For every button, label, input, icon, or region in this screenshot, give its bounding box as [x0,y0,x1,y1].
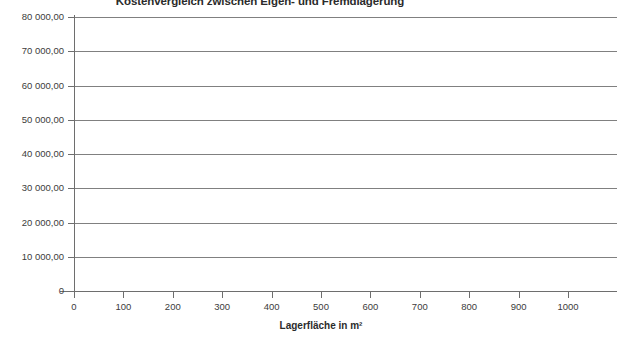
y-axis-tick [68,17,75,18]
y-axis-tick [68,223,75,224]
gridline [74,223,617,224]
gridline [74,188,617,189]
y-axis-tick [68,188,75,189]
x-axis-tick [321,292,322,298]
plot-area [74,17,617,291]
x-axis-tick [568,292,569,298]
x-axis-tick [74,292,75,298]
x-axis-tick [469,292,470,298]
y-axis-tick [68,154,75,155]
y-axis-tick-label: 20 000,00 [0,217,64,228]
gridline [74,120,617,121]
y-axis-tick [68,257,75,258]
chart-figure: Kostenvergleich zwischen Eigen- und Frem… [0,0,617,337]
x-axis-tick-label: 1000 [538,301,598,312]
x-axis-title: Lagerfläche in m² [74,320,568,331]
gridline [74,86,617,87]
x-axis-tick [222,292,223,298]
y-axis-tick-label: 10 000,00 [0,251,64,262]
x-axis-tick [272,292,273,298]
y-axis-tick-label: 50 000,00 [0,114,64,125]
gridline [74,51,617,52]
y-axis-tick-label: 60 000,00 [0,80,64,91]
x-axis-tick [173,292,174,298]
x-axis-tick [123,292,124,298]
y-axis-tick [68,120,75,121]
y-axis-tick-label: 80 000,00 [0,11,64,22]
y-axis-tick-label: 70 000,00 [0,45,64,56]
y-axis-tick [68,51,75,52]
x-axis-line [60,291,617,292]
y-axis-tick-label: 0 [0,285,64,296]
x-axis-tick [519,292,520,298]
y-axis-tick-label: 40 000,00 [0,148,64,159]
x-axis-tick [370,292,371,298]
chart-title: Kostenvergleich zwischen Eigen- und Frem… [0,0,520,7]
x-axis-tick [420,292,421,298]
gridline [74,257,617,258]
y-axis-tick-label: 30 000,00 [0,182,64,193]
gridline [74,154,617,155]
gridline [74,17,617,18]
y-axis-tick [68,86,75,87]
